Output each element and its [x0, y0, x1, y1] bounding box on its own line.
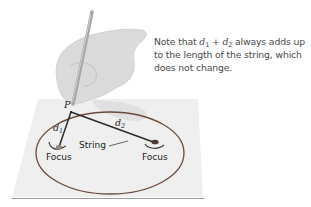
hand-icon [56, 29, 146, 104]
point-p-marker [70, 111, 72, 113]
label-string: String [79, 140, 106, 150]
label-focus-left: Focus [46, 152, 72, 162]
label-point-p: P [64, 99, 70, 110]
label-d2: d2 [115, 117, 125, 128]
caption-operator: + [209, 36, 222, 47]
label-d2-sub: 2 [121, 122, 125, 130]
caption-note: Note that d1 + d2 always adds up to the … [154, 35, 311, 74]
label-d1: d1 [53, 122, 63, 133]
caption-prefix: Note that [154, 36, 199, 47]
label-focus-right: Focus [142, 152, 168, 162]
focus-right-pin-head [151, 140, 158, 145]
paper-sheet [12, 99, 203, 197]
ellipse-construction-illustration [0, 0, 311, 207]
label-d1-sub: 1 [59, 127, 63, 135]
focus-left-pin-head [56, 145, 62, 149]
